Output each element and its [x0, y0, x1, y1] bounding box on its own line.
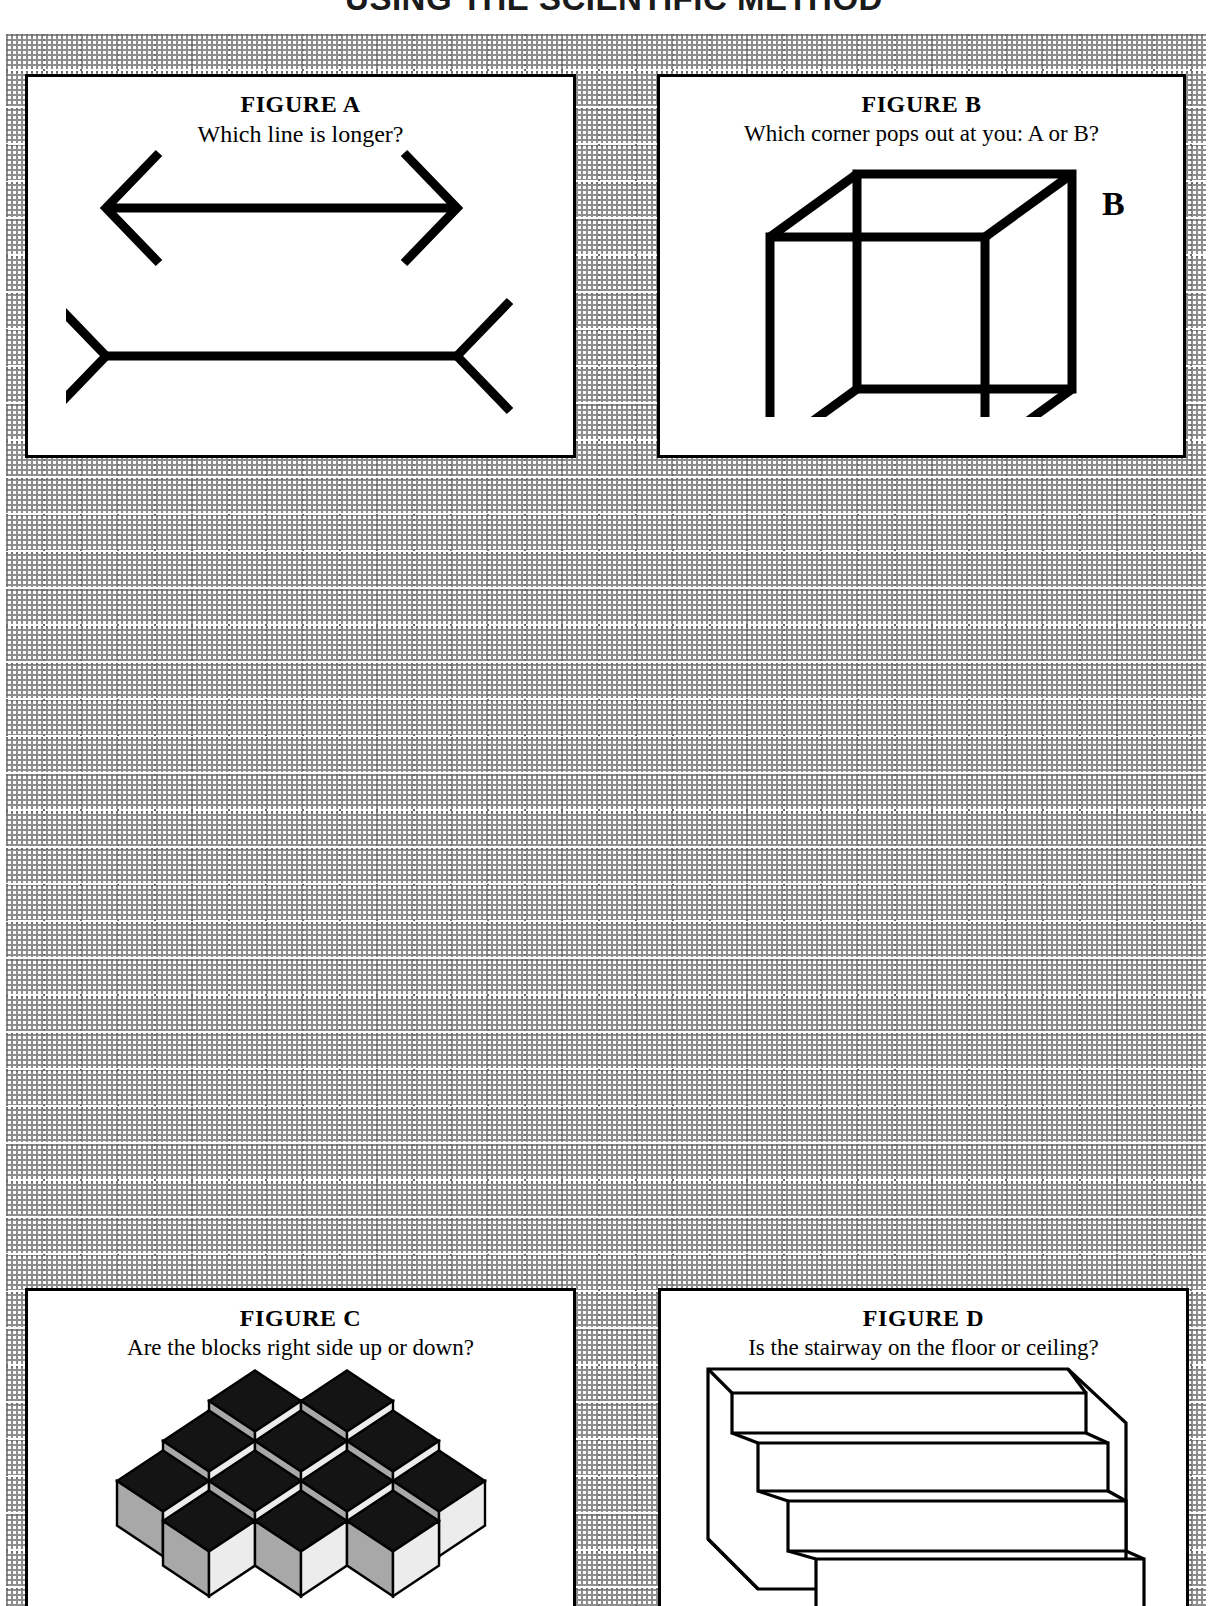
- necker-cube-label-b: B: [1102, 185, 1125, 222]
- grid-line-horizontal: [6, 848, 1206, 850]
- figure-a-question: Which line is longer?: [28, 121, 573, 148]
- grid-line-horizontal: [6, 1070, 1206, 1072]
- grid-line-horizontal: [6, 959, 1206, 961]
- muller-lyer-bottom-left-fin: [66, 301, 106, 411]
- grid-line-horizontal: [6, 589, 1206, 591]
- muller-lyer-bottom-right-fin: [457, 301, 510, 411]
- schroder-staircase-illusion: [696, 1361, 1151, 1606]
- tumbling-blocks-illusion: [71, 1361, 531, 1606]
- grid-line-horizontal: [6, 885, 1206, 887]
- figure-b-art: B A: [660, 147, 1183, 417]
- figure-b-question: Which corner pops out at you: A or B?: [660, 121, 1183, 147]
- grid-line-horizontal: [6, 1181, 1206, 1183]
- grid-line-horizontal: [6, 34, 1206, 36]
- grid-line-horizontal: [6, 1218, 1206, 1220]
- grid-line-horizontal: [6, 1033, 1206, 1035]
- figure-d-heading: FIGURE D: [661, 1305, 1186, 1332]
- figure-b-heading: FIGURE B: [660, 91, 1183, 118]
- grid-line-horizontal: [6, 700, 1206, 702]
- necker-cube-back-square: [857, 174, 1072, 389]
- grid-line-vertical: [598, 34, 600, 1606]
- grid-line-horizontal: [6, 996, 1206, 998]
- grid-line-horizontal: [6, 478, 1206, 480]
- figure-c-question: Are the blocks right side up or down?: [28, 1335, 573, 1361]
- necker-cube-edge-tl: [770, 174, 857, 237]
- figure-c-heading: FIGURE C: [28, 1305, 573, 1332]
- grid-line-horizontal: [6, 1255, 1206, 1257]
- figure-d-question: Is the stairway on the floor or ceiling?: [661, 1335, 1186, 1361]
- figure-d-art: [661, 1361, 1186, 1606]
- necker-cube-illusion: B A: [682, 147, 1162, 417]
- grid-line-vertical: [6, 34, 8, 1606]
- staircase-step-2: [758, 1443, 1108, 1491]
- grid-line-horizontal: [6, 552, 1206, 554]
- worksheet-page: USING THE SCIENTIFIC METHOD FIGURE A Whi…: [0, 0, 1228, 1606]
- figure-box-c: FIGURE C Are the blocks right side up or…: [25, 1288, 576, 1606]
- figure-a-art: [28, 148, 573, 418]
- figure-box-a: FIGURE A Which line is longer?: [25, 74, 576, 458]
- grid-line-horizontal: [6, 737, 1206, 739]
- muller-lyer-illusion: [66, 148, 536, 418]
- figure-c-art: [28, 1361, 573, 1606]
- grid-line-vertical: [635, 34, 637, 1606]
- grid-line-horizontal: [6, 663, 1206, 665]
- figure-a-heading: FIGURE A: [28, 91, 573, 118]
- staircase-step-1: [732, 1393, 1086, 1433]
- grid-line-horizontal: [6, 71, 1206, 73]
- grid-line-horizontal: [6, 626, 1206, 628]
- grid-line-horizontal: [6, 774, 1206, 776]
- grid-line-horizontal: [6, 515, 1206, 517]
- figure-box-d: FIGURE D Is the stairway on the floor or…: [658, 1288, 1189, 1606]
- grid-line-horizontal: [6, 922, 1206, 924]
- staircase-step-4: [816, 1559, 1144, 1606]
- page-title: USING THE SCIENTIFIC METHOD: [0, 0, 1228, 18]
- staircase-step-3: [788, 1501, 1126, 1551]
- grid-line-vertical: [1190, 34, 1192, 1606]
- grid-line-horizontal: [6, 1107, 1206, 1109]
- figure-box-b: FIGURE B Which corner pops out at you: A…: [657, 74, 1186, 458]
- grid-line-horizontal: [6, 1144, 1206, 1146]
- grid-line-horizontal: [6, 811, 1206, 813]
- necker-cube-edge-bl: [770, 389, 857, 417]
- necker-cube-edge-tr: [985, 174, 1072, 237]
